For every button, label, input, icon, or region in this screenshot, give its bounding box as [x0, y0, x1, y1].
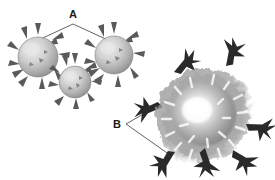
large-cell-mass: [131, 35, 275, 180]
label-a: A: [69, 8, 77, 20]
large-cell-core: [172, 82, 236, 146]
label-b: B: [113, 118, 121, 130]
figure-canvas: A B: [0, 0, 275, 180]
small-cell-right: [84, 22, 145, 87]
illustration-svg: A B: [0, 0, 275, 180]
